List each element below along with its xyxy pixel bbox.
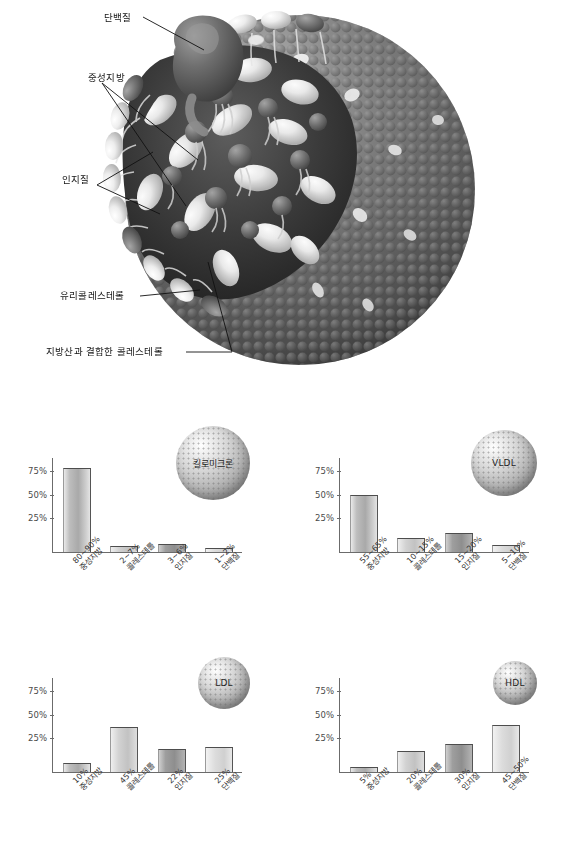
chart-vldl: VLDL25%50%75%55~65%중성지방10~15%콜레스테롤15~20%… [287,420,574,630]
y-axis-tick: 75% [315,686,340,696]
chart-chylomicron: 킬로미크론25%50%75%80~90%중성지방2~7%콜레스테롤3~6%인지질… [0,420,287,630]
y-axis-tick: 75% [28,466,53,476]
x-axis-label-chylomicron-3: 1~2%단백질 [213,542,244,573]
y-axis-tick: 50% [28,490,53,500]
plot-area: 25%50%75%10%중성지방45%콜레스테롤22%인지질25%단백질 [52,678,242,773]
chart-ldl: LDL25%50%75%10%중성지방45%콜레스테롤22%인지질25%단백질 [0,640,287,850]
plot-area: 25%50%75%5%중성지방20%콜레스테롤30%인지질45~50%단백질 [339,678,529,773]
callout-label-free-cholesterol: 유리콜레스테롤 [60,288,124,302]
y-axis-tick: 25% [28,733,53,743]
callout-label-esterified-cholesterol: 지방산과 결합한 콜레스테롤 [46,344,163,358]
page-root: 단백질 중성지방 인지질 유리콜레스테롤 지방산과 결합한 콜레스테롤 킬로미크… [0,0,574,850]
callout-label-protein: 단백질 [104,10,132,24]
plot-area: 25%50%75%55~65%중성지방10~15%콜레스테롤15~20%인지질5… [339,458,529,553]
callout-label-phospholipid: 인지질 [62,172,90,186]
callout-label-triglyceride: 중성지방 [88,70,125,84]
x-axis-label-hdl-0: 5%중성지방 [358,759,392,793]
x-axis-label-vldl-3: 5~10%단백질 [500,538,535,573]
x-axis-label-chylomicron-1: 2~7%콜레스테롤 [118,534,157,573]
lipoprotein-particle-graphic [0,0,574,400]
plot-area: 25%50%75%80~90%중성지방2~7%콜레스테롤3~6%인지질1~2%단… [52,458,242,553]
y-axis-tick: 75% [28,686,53,696]
y-axis-tick: 25% [315,733,340,743]
bar-chylomicron-0 [63,468,91,552]
y-axis-tick: 50% [315,490,340,500]
y-axis-tick: 25% [28,513,53,523]
y-axis-tick: 25% [315,513,340,523]
y-axis-tick: 50% [28,710,53,720]
lipoprotein-illustration: 단백질 중성지방 인지질 유리콜레스테롤 지방산과 결합한 콜레스테롤 [0,0,574,400]
y-axis-tick: 75% [315,466,340,476]
chart-hdl: HDL25%50%75%5%중성지방20%콜레스테롤30%인지질45~50%단백… [287,640,574,850]
y-axis-tick: 50% [315,710,340,720]
